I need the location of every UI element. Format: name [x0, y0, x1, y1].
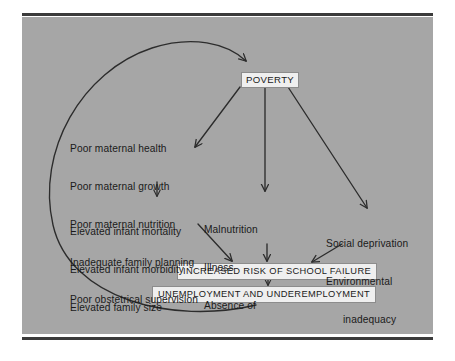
figure-plate: POVERTY INCREASED RISK OF SCHOOL FAILURE…: [22, 13, 433, 340]
infant-line-2: Elevated infant morbidity: [70, 264, 184, 277]
malnutrition-line-3: Absence of: [204, 300, 280, 313]
node-poverty[interactable]: POVERTY: [241, 72, 299, 88]
social-line-1: Social deprivation: [326, 238, 408, 251]
social-line-2: Environmental: [326, 276, 408, 289]
block-infant-outcomes: Elevated infant mortality Elevated infan…: [70, 201, 184, 334]
figure-root: POVERTY INCREASED RISK OF SCHOOL FAILURE…: [0, 0, 455, 361]
maternal-line-1: Poor maternal health: [70, 143, 198, 156]
maternal-line-2: Poor maternal growth: [70, 181, 198, 194]
malnutrition-line-2: Illness: [204, 262, 280, 275]
social-line-3: inadequacy: [326, 314, 408, 327]
infant-line-1: Elevated infant mortality: [70, 226, 184, 239]
edge-poverty-to-maternal: [195, 87, 240, 147]
block-health-deficits: Malnutrition Illness Absence of medical …: [204, 199, 280, 334]
diagram-canvas: POVERTY INCREASED RISK OF SCHOOL FAILURE…: [22, 17, 433, 334]
block-social-deficits: Social deprivation Environmental inadequ…: [326, 213, 408, 334]
infant-line-3: Elevated family size: [70, 302, 184, 315]
bottom-rule: [22, 337, 433, 340]
malnutrition-line-1: Malnutrition: [204, 224, 280, 237]
edge-poverty-to-social: [288, 87, 367, 208]
top-rule: [22, 13, 433, 16]
